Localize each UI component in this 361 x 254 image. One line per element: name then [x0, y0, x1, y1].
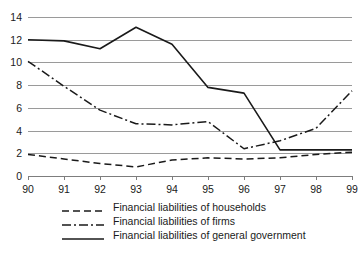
chart-legend: Financial liabilities of householdsFinan…	[62, 200, 352, 242]
x-axis-tick-mark	[316, 176, 317, 180]
gridline	[28, 131, 352, 132]
x-axis-tick-mark	[28, 176, 29, 180]
x-axis-tick-label: 98	[303, 184, 329, 195]
x-axis-tick-mark	[64, 176, 65, 180]
gridline	[28, 153, 352, 154]
legend-item: Financial liabilities of general governm…	[62, 228, 352, 242]
x-axis-tick-label: 94	[159, 184, 185, 195]
y-axis-tick-label: 14	[0, 12, 22, 23]
x-axis-tick-mark	[100, 176, 101, 180]
gridline	[28, 17, 352, 18]
y-axis-tick-label: 10	[0, 57, 22, 68]
x-axis-tick-label: 96	[231, 184, 257, 195]
x-axis-tick-mark	[244, 176, 245, 180]
gridline	[28, 62, 352, 63]
x-axis-tick-label: 97	[267, 184, 293, 195]
x-axis-tick-mark	[280, 176, 281, 180]
y-axis-tick-label: 6	[0, 103, 22, 114]
x-axis-tick-label: 95	[195, 184, 221, 195]
gridline	[28, 108, 352, 109]
x-axis-tick-mark	[172, 176, 173, 180]
x-axis-tick-mark	[136, 176, 137, 180]
legend-item: Financial liabilities of firms	[62, 214, 352, 228]
gridline	[28, 40, 352, 41]
legend-line-swatch	[62, 202, 104, 212]
x-axis-tick-mark	[208, 176, 209, 180]
y-axis-tick-label: 8	[0, 80, 22, 91]
y-axis-tick-label: 0	[0, 171, 22, 182]
x-axis-tick-label: 99	[339, 184, 361, 195]
legend-item-label: Financial liabilities of households	[113, 202, 266, 213]
legend-item-label: Financial liabilities of general governm…	[113, 230, 306, 241]
x-axis-line	[28, 176, 352, 177]
plot-area	[28, 17, 352, 176]
x-axis-tick-label: 92	[87, 184, 113, 195]
x-axis-tick-label: 93	[123, 184, 149, 195]
chart-container: 02468101214 90919293949596979899 Financi…	[0, 0, 361, 254]
y-axis-tick-label: 2	[0, 148, 22, 159]
legend-item: Financial liabilities of households	[62, 200, 352, 214]
gridline	[28, 85, 352, 86]
legend-item-label: Financial liabilities of firms	[113, 216, 235, 227]
legend-line-swatch	[62, 230, 104, 240]
x-axis-tick-mark	[352, 176, 353, 180]
y-axis-tick-label: 4	[0, 126, 22, 137]
x-axis-tick-label: 91	[51, 184, 77, 195]
legend-line-swatch	[62, 216, 104, 226]
y-axis-tick-label: 12	[0, 35, 22, 46]
x-axis-tick-label: 90	[15, 184, 41, 195]
